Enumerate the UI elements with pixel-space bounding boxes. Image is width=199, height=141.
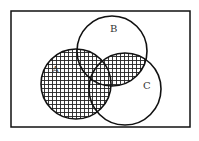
venn-diagram: A B C (0, 0, 199, 141)
set-c-label: C (143, 80, 151, 91)
set-b-label: B (110, 23, 117, 34)
set-a-label: A (51, 64, 60, 75)
